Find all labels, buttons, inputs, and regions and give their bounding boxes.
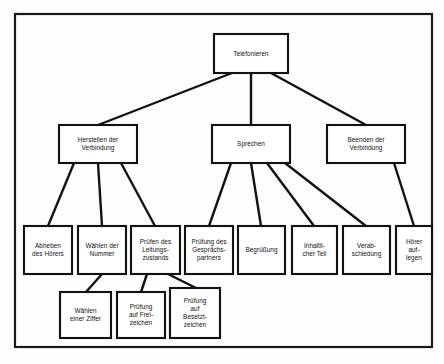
node-pruefen-leitungszustand[interactable]: Prüfen desLeitungs-zustands: [131, 226, 180, 274]
node-label-pruefung-freizeichen: Prüfungauf Frei-zeichen: [129, 303, 153, 326]
connector-beenden-hoerer: [394, 163, 414, 226]
node-label-telefonieren: Telefonieren: [233, 49, 269, 56]
connector-herstellen-waehlen-nummer: [98, 163, 102, 226]
node-label-begruessung: Begrüßung: [245, 246, 277, 254]
node-herstellen[interactable]: Herstellen derVerbindung: [59, 125, 137, 163]
node-verabschiedung[interactable]: Verab-schiedung: [343, 226, 390, 274]
node-label-abheben: Abhebendes Hörers: [32, 242, 64, 257]
node-telefonieren[interactable]: Telefonieren: [214, 34, 288, 73]
connector-pruefen-besetztzeichen: [168, 274, 196, 288]
node-label-sprechen: Sprechen: [237, 140, 265, 148]
node-abheben[interactable]: Abhebendes Hörers: [24, 226, 72, 274]
node-label-pruefen-leitungszustand: Prüfen desLeitungs-zustands: [140, 238, 171, 261]
diagram-canvas: TelefonierenHerstellen derVerbindungSpre…: [0, 0, 444, 364]
node-waehlen-ziffer[interactable]: Wähleneiner Ziffer: [60, 292, 111, 338]
node-label-beenden: Beenden derVerbindung: [347, 136, 385, 152]
connector-sprechen-verabschiedung: [285, 163, 366, 226]
connector-pruefen-freizeichen: [141, 274, 147, 292]
node-beenden[interactable]: Beenden derVerbindung: [327, 125, 405, 163]
connector-sprechen-begruessung: [251, 163, 261, 226]
connector-herstellen-abheben: [48, 163, 74, 226]
node-pruefung-besetztzeichen[interactable]: PrüfungaufBesetzt-zeichen: [170, 288, 220, 338]
node-hoerer-auflegen[interactable]: Hörerauf-legen: [396, 226, 432, 274]
connector-sprechen-inhaltlicher: [267, 163, 314, 226]
node-begruessung[interactable]: Begrüßung: [238, 226, 285, 274]
node-inhaltlicher-teil[interactable]: Inhaltli-cher Teil: [292, 226, 337, 274]
connector-waehlen-nummer-ziffer: [86, 274, 102, 292]
node-label-pruefung-besetztzeichen: PrüfungaufBesetzt-zeichen: [183, 297, 207, 328]
node-label-inhaltlicher-teil: Inhaltli-cher Teil: [302, 242, 326, 257]
connector-telefonieren-beenden: [271, 73, 366, 125]
connector-sprechen-pruefung-partner: [209, 163, 231, 226]
node-layer: TelefonierenHerstellen derVerbindungSpre…: [24, 34, 432, 338]
node-pruefung-gespraechspartner[interactable]: Prüfung desGesprächs-partners: [185, 226, 233, 274]
node-pruefung-freizeichen[interactable]: Prüfungauf Frei-zeichen: [117, 292, 165, 338]
connector-herstellen-pruefen: [121, 163, 155, 226]
node-label-waehlen-nummer: Wählen derNummer: [85, 242, 119, 257]
node-waehlen-nummer[interactable]: Wählen derNummer: [78, 226, 126, 274]
node-sprechen[interactable]: Sprechen: [212, 125, 290, 163]
connector-telefonieren-herstellen: [98, 73, 232, 125]
hierarchy-tree-diagram: TelefonierenHerstellen derVerbindungSpre…: [0, 0, 444, 364]
node-label-herstellen: Herstellen derVerbindung: [78, 136, 119, 152]
